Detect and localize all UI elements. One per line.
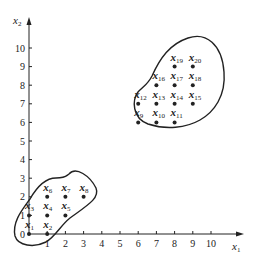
point-label: x16 bbox=[151, 69, 165, 83]
point-label: x1 bbox=[24, 218, 35, 232]
point-label: x13 bbox=[151, 88, 165, 102]
point-label: x7 bbox=[60, 181, 71, 195]
point-label: x19 bbox=[170, 51, 184, 65]
x-tick-label: 9 bbox=[190, 238, 195, 249]
data-point-x3: x3 bbox=[24, 199, 35, 217]
data-point-x19: x19 bbox=[170, 51, 184, 69]
x-tick-label: 4 bbox=[99, 238, 104, 249]
cluster-scatter-diagram: 12345678910 012345678910 x1 x2 x1x2x3x4x… bbox=[0, 0, 255, 265]
point-label: x18 bbox=[188, 69, 202, 83]
data-point-x2: x2 bbox=[42, 218, 53, 236]
y-tick-label: 7 bbox=[20, 98, 25, 109]
y-tick-label: 9 bbox=[20, 61, 25, 72]
point-dot-icon bbox=[173, 102, 177, 106]
point-dot-icon bbox=[173, 120, 177, 124]
point-label: x2 bbox=[42, 218, 53, 232]
data-point-x1: x1 bbox=[24, 218, 35, 236]
point-dot-icon bbox=[63, 195, 67, 199]
x-tick-label: 10 bbox=[206, 238, 216, 249]
y-tick-label: 4 bbox=[20, 154, 25, 165]
x-tick-label: 2 bbox=[63, 238, 68, 249]
y-axis-arrow-icon bbox=[27, 17, 32, 25]
point-label: x20 bbox=[188, 51, 202, 65]
data-point-x10: x10 bbox=[151, 106, 165, 124]
data-point-x18: x18 bbox=[188, 69, 202, 87]
point-label: x5 bbox=[60, 199, 71, 213]
y-tick-label: 6 bbox=[20, 117, 25, 128]
data-point-x13: x13 bbox=[151, 88, 165, 106]
point-dot-icon bbox=[45, 195, 49, 199]
x-tick-label: 3 bbox=[81, 238, 86, 249]
y-tick-label: 8 bbox=[20, 80, 25, 91]
point-label: x15 bbox=[188, 88, 202, 102]
point-dot-icon bbox=[63, 213, 67, 217]
data-point-x14: x14 bbox=[170, 88, 184, 106]
point-dot-icon bbox=[45, 213, 49, 217]
data-point-x6: x6 bbox=[42, 181, 53, 199]
data-point-x5: x5 bbox=[60, 199, 71, 217]
point-dot-icon bbox=[136, 120, 140, 124]
x-tick-label: 6 bbox=[136, 238, 141, 249]
y-tick-label: 10 bbox=[15, 43, 25, 54]
data-point-x4: x4 bbox=[42, 199, 53, 217]
point-label: x11 bbox=[170, 106, 184, 120]
point-label: x17 bbox=[170, 69, 184, 83]
x-tick-label: 5 bbox=[118, 238, 123, 249]
x-axis-label: x1 bbox=[231, 240, 241, 254]
data-point-x11: x11 bbox=[170, 106, 184, 124]
point-label: x9 bbox=[133, 106, 144, 120]
data-point-x16: x16 bbox=[151, 69, 165, 87]
y-axis-label: x2 bbox=[12, 14, 22, 28]
point-dot-icon bbox=[191, 83, 195, 87]
point-label: x6 bbox=[42, 181, 53, 195]
y-tick-label: 3 bbox=[20, 173, 25, 184]
point-dot-icon bbox=[173, 83, 177, 87]
point-dot-icon bbox=[173, 65, 177, 69]
point-label: x10 bbox=[151, 106, 165, 120]
point-label: x4 bbox=[42, 199, 53, 213]
data-point-x15: x15 bbox=[188, 88, 202, 106]
point-dot-icon bbox=[27, 213, 31, 217]
point-dot-icon bbox=[27, 232, 31, 236]
data-point-x17: x17 bbox=[170, 69, 184, 87]
point-label: x3 bbox=[24, 199, 35, 213]
point-dot-icon bbox=[154, 83, 158, 87]
point-dot-icon bbox=[154, 102, 158, 106]
point-dot-icon bbox=[82, 195, 86, 199]
point-dot-icon bbox=[136, 102, 140, 106]
point-label: x14 bbox=[170, 88, 184, 102]
point-label: x8 bbox=[79, 181, 90, 195]
point-dot-icon bbox=[191, 65, 195, 69]
data-point-x8: x8 bbox=[79, 181, 90, 199]
point-dot-icon bbox=[45, 232, 49, 236]
x-tick-label: 7 bbox=[154, 238, 159, 249]
x-tick-label: 8 bbox=[172, 238, 177, 249]
y-tick-label: 5 bbox=[20, 136, 25, 147]
x-axis-arrow-icon bbox=[236, 232, 244, 237]
data-points: x1x2x3x4x5x6x7x8x9x10x11x12x13x14x15x16x… bbox=[24, 51, 202, 236]
data-point-x7: x7 bbox=[60, 181, 71, 199]
data-point-x20: x20 bbox=[188, 51, 202, 69]
point-dot-icon bbox=[154, 120, 158, 124]
y-tick-label: 0 bbox=[20, 229, 25, 240]
point-dot-icon bbox=[191, 102, 195, 106]
